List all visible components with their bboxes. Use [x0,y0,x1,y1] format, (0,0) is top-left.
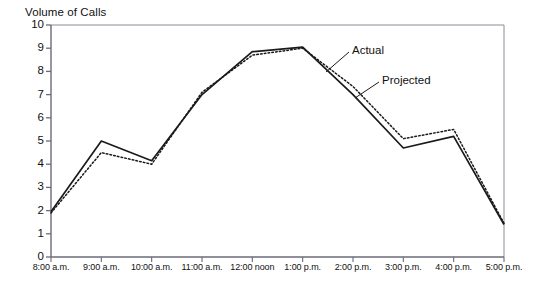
y-axis-tick-label: 7 [22,89,44,101]
x-axis-tick-label: 5:00 p.m. [486,262,523,272]
x-axis-tick-label: 8:00 a.m. [33,262,70,272]
annotation-label-projected: Projected [382,74,431,86]
x-axis-tick-label: 12:00 noon [230,262,274,272]
y-axis-tick-label: 3 [22,182,44,194]
plot-area [0,0,547,307]
y-axis-tick-label: 4 [22,158,44,170]
y-axis-tick-label: 5 [22,135,44,147]
y-axis-tick-label: 1 [22,228,44,240]
y-axis-tick-labels: 012345678910 [18,0,44,307]
x-axis-tick-label: 10:00 a.m. [131,262,173,272]
x-axis-tick-label: 9:00 a.m. [83,262,120,272]
x-axis-tick-label: 3:00 p.m. [385,262,422,272]
annotation-leader-actual [326,52,349,72]
y-axis-ticks [46,25,51,257]
x-axis-tick-label: 4:00 p.m. [435,262,472,272]
x-axis-tick-label: 2:00 p.m. [335,262,372,272]
x-axis-tick-label: 11:00 a.m. [182,262,223,272]
x-axis-tick-label: 1:00 p.m. [284,262,321,272]
y-axis-tick-label: 9 [22,42,44,54]
series-line-projected [51,48,504,223]
y-axis-tick-label: 6 [22,112,44,124]
series-line-actual [51,47,504,224]
call-volume-line-chart: Volume of Calls 012345678910 Actual Proj… [0,0,547,307]
y-axis-tick-label: 10 [22,19,44,31]
annotation-label-actual: Actual [352,44,384,56]
y-axis-tick-label: 8 [22,66,44,78]
annotation-leader-projected [355,82,379,98]
y-axis-tick-label: 2 [22,205,44,217]
